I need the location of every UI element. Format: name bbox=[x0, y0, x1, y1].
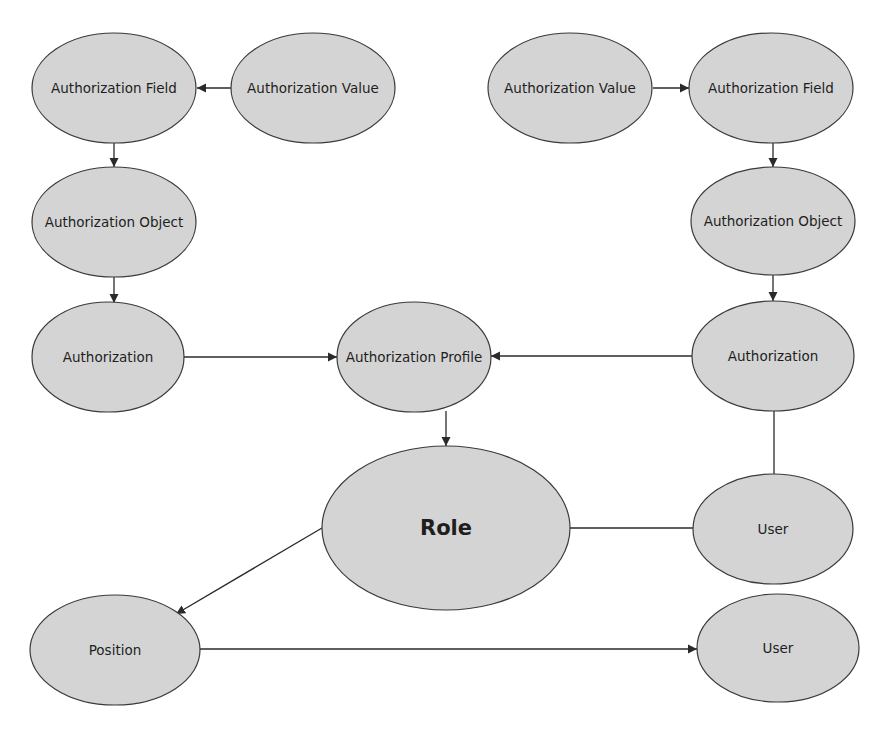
node-label: Authorization Value bbox=[247, 80, 379, 96]
node-auth-field-left: Authorization Field bbox=[32, 33, 196, 143]
node-label: Authorization Object bbox=[704, 213, 843, 229]
node-authorization-right: Authorization bbox=[692, 301, 854, 411]
nodes-layer: Authorization FieldAuthorization ValueAu… bbox=[30, 33, 859, 705]
node-auth-value-left: Authorization Value bbox=[231, 33, 395, 143]
node-label: Authorization bbox=[63, 349, 153, 365]
node-label: User bbox=[758, 521, 789, 537]
node-auth-object-left: Authorization Object bbox=[32, 167, 196, 277]
node-label: Authorization Object bbox=[45, 214, 184, 230]
node-label: Authorization Field bbox=[708, 80, 834, 96]
authorization-diagram: Authorization FieldAuthorization ValueAu… bbox=[0, 0, 889, 733]
node-label: Authorization Profile bbox=[346, 349, 483, 365]
node-label: Authorization Value bbox=[504, 80, 636, 96]
node-role: Role bbox=[322, 446, 570, 610]
node-label: User bbox=[763, 640, 794, 656]
node-user-right: User bbox=[693, 474, 853, 584]
node-auth-object-right: Authorization Object bbox=[691, 167, 855, 275]
node-label: Authorization bbox=[728, 348, 818, 364]
node-label: Position bbox=[89, 642, 142, 658]
edge-role-to-position bbox=[176, 528, 322, 614]
node-authorization-left: Authorization bbox=[32, 302, 184, 412]
node-label: Authorization Field bbox=[51, 80, 177, 96]
node-user-bottom: User bbox=[697, 594, 859, 702]
node-auth-value-right: Authorization Value bbox=[488, 33, 652, 143]
node-auth-field-right: Authorization Field bbox=[689, 33, 853, 143]
node-position: Position bbox=[30, 595, 200, 705]
node-label: Role bbox=[420, 516, 472, 540]
node-auth-profile: Authorization Profile bbox=[337, 302, 491, 412]
